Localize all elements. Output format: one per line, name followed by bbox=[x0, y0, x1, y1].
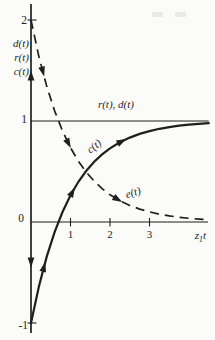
y-tick-label: 2 bbox=[21, 14, 27, 26]
y-axis-arrow-up bbox=[28, 71, 35, 81]
curve-label-rd: r(t), d(t) bbox=[98, 98, 134, 111]
e-curve-arrow bbox=[38, 66, 45, 77]
y-tick-label: 1 bbox=[21, 113, 27, 125]
x-tick-label: 3 bbox=[147, 228, 153, 240]
c-curve-arrow bbox=[67, 188, 75, 198]
y-axis-arrow-down bbox=[28, 257, 35, 267]
c-curve-arrow bbox=[116, 139, 126, 147]
x-axis-label: z1t bbox=[194, 229, 207, 244]
curve-label-c: c(t) bbox=[84, 136, 104, 156]
x-tick-label: 2 bbox=[107, 228, 113, 240]
curve-label-e: e(t) bbox=[124, 184, 143, 201]
y-tick-label: -1 bbox=[18, 319, 28, 331]
exponential-response-figure: d(t) r(t) c(t) 123210-1z1tr(t), d(t)c(t)… bbox=[0, 0, 215, 340]
e-curve-arrow bbox=[63, 138, 71, 148]
c-curve-arrow bbox=[39, 262, 46, 273]
c-curve bbox=[31, 123, 209, 323]
x-tick-label: 1 bbox=[68, 228, 74, 240]
e-curve bbox=[31, 20, 209, 220]
chart-svg: 123210-1z1tr(t), d(t)c(t)e(t) bbox=[0, 0, 215, 340]
y-tick-label: 0 bbox=[18, 212, 24, 224]
e-curve-arrow bbox=[112, 194, 122, 202]
